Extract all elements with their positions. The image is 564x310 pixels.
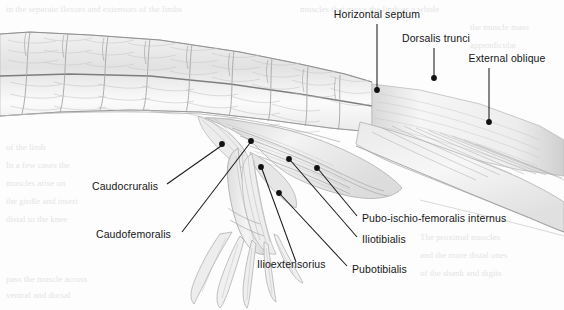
leader-dot-pubo-ischio-femoralis-internus: [314, 165, 320, 171]
leader-dot-dorsalis-trunci: [431, 75, 437, 81]
bleed-text-line: the girdle and insert: [6, 196, 78, 206]
bleed-text-line: in the separate flexors and extensors of…: [6, 4, 182, 14]
label-ilioextensorius[interactable]: Ilioextensorius: [257, 258, 326, 270]
bleed-text-line: of the limb: [6, 142, 46, 152]
label-pubo-ischio-femoralis-internus[interactable]: Pubo-ischio-femoralis internus: [362, 212, 506, 224]
figure-canvas: in the separate flexors and extensors of…: [0, 0, 564, 310]
bleed-text-line: In a few cases the: [6, 160, 70, 170]
leader-dot-horizontal-septum: [374, 87, 380, 93]
bleed-text-line: distal to the knee: [6, 214, 67, 224]
leader-dot-iliotibialis: [286, 156, 292, 162]
leader-dot-caudofemoralis: [248, 138, 254, 144]
leader-dot-caudocruralis: [219, 141, 225, 147]
anatomical-figure: in the separate flexors and extensors of…: [0, 0, 564, 310]
label-dorsalis-trunci[interactable]: Dorsalis trunci: [402, 32, 470, 44]
label-horizontal-septum[interactable]: Horizontal septum: [334, 8, 420, 20]
bleed-text-line: ventral and dorsal: [6, 290, 71, 300]
leader-dot-ilioextensorius: [258, 164, 264, 170]
label-caudofemoralis[interactable]: Caudofemoralis: [96, 228, 171, 240]
label-external-oblique[interactable]: External oblique: [469, 52, 546, 64]
label-caudocruralis[interactable]: Caudocruralis: [92, 180, 158, 192]
bleed-text-line: muscles arise on: [6, 178, 66, 188]
leader-dot-external-oblique: [486, 119, 492, 125]
label-iliotibialis[interactable]: Iliotibialis: [362, 233, 406, 245]
bleed-text-line: of the shank and digits: [420, 268, 502, 278]
bleed-text-line: and the more distal ones: [420, 250, 508, 260]
label-pubotibialis[interactable]: Pubotibialis: [352, 263, 407, 275]
bleed-text-line: the muscle mass: [470, 22, 529, 32]
bleed-text-line: The proximal muscles: [420, 232, 500, 242]
bleed-text-line: appendicular: [470, 40, 516, 50]
bleed-text-line: pass the muscle across: [6, 274, 88, 284]
leader-dot-pubotibialis: [276, 190, 282, 196]
